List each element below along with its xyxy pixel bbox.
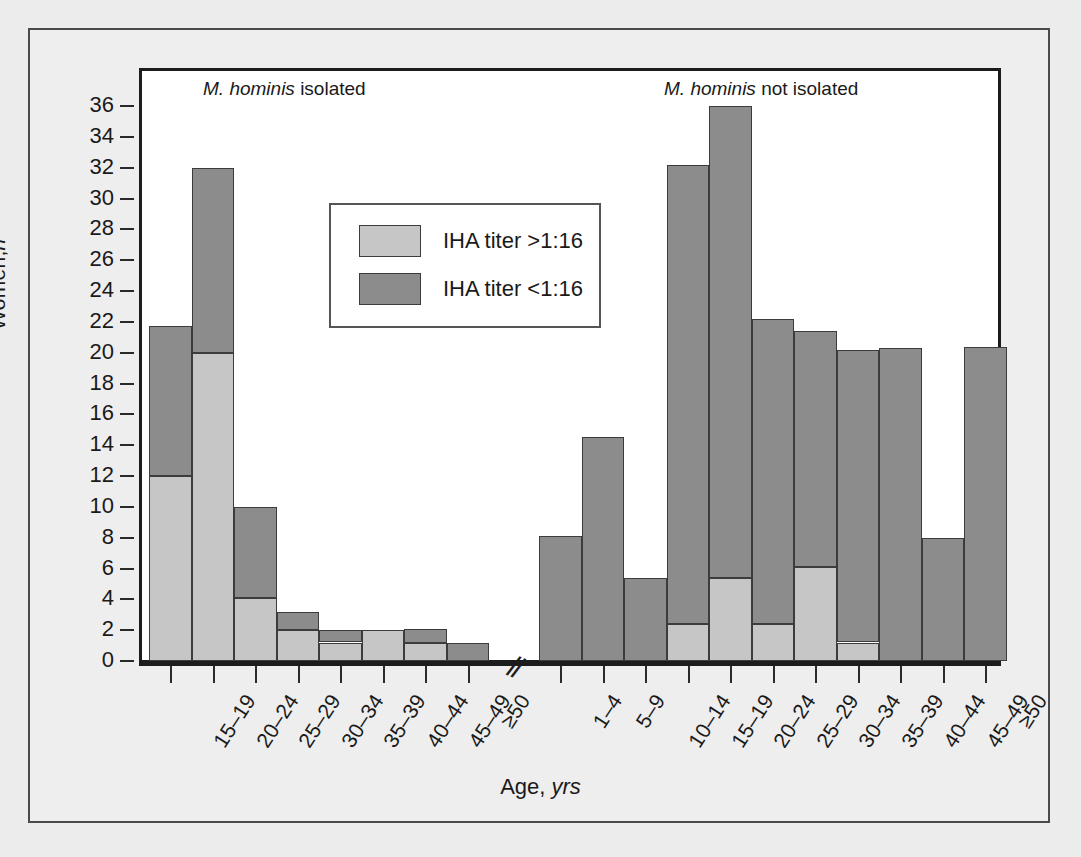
x-axis-tick-mark [560, 666, 562, 683]
bar-segment-low-titer [837, 350, 880, 643]
bar-segment-high-titer [149, 476, 192, 661]
x-axis-tick-mark [255, 666, 257, 683]
y-axis-tick-label: 24 [60, 277, 114, 303]
y-axis-tick-label: 2 [60, 616, 114, 642]
y-axis-tick-label: 28 [60, 215, 114, 241]
y-axis-tick-label: 32 [60, 154, 114, 180]
bar-segment-low-titer [667, 165, 710, 624]
y-axis-tick-mark [120, 290, 134, 292]
bar-segment-low-titer [964, 347, 1007, 662]
x-axis-tick-mark [213, 666, 215, 683]
legend: IHA titer >1:16 IHA titer <1:16 [329, 203, 601, 328]
figure-root: Women,n 02468101214161820222426283032343… [0, 0, 1081, 857]
y-axis-tick-label: 22 [60, 308, 114, 334]
y-axis-tick-label: 30 [60, 185, 114, 211]
x-axis-tick-mark [170, 666, 172, 683]
bar-segment-high-titer [752, 624, 795, 661]
x-axis-tick-mark [688, 666, 690, 683]
x-axis-title-main: Age, [500, 774, 545, 799]
panel-title-right-rest: not isolated [756, 78, 858, 99]
bar-segment-low-titer [582, 437, 625, 661]
x-axis-tick-mark [603, 666, 605, 683]
legend-swatch-low-titer [359, 273, 421, 305]
x-axis-title: Age, yrs [0, 774, 1081, 800]
panel-title-right: M. hominis not isolated [664, 78, 858, 100]
y-axis-tick-label: 4 [60, 585, 114, 611]
x-axis-line [139, 661, 1001, 666]
legend-entry-high-titer: IHA titer >1:16 [359, 225, 583, 257]
bar-segment-low-titer [624, 578, 667, 661]
legend-label-high-titer: IHA titer >1:16 [443, 228, 583, 254]
bar-segment-low-titer [319, 630, 362, 642]
bar-segment-high-titer [709, 578, 752, 661]
x-axis-tick-mark [730, 666, 732, 683]
panel-title-right-species: M. hominis [664, 78, 756, 99]
y-axis-tick-mark [120, 198, 134, 200]
y-axis-tick-label: 12 [60, 462, 114, 488]
y-axis-tick-label: 6 [60, 555, 114, 581]
bar-segment-high-titer [362, 630, 405, 661]
x-axis-tick-mark [383, 666, 385, 683]
y-axis-tick-mark [120, 444, 134, 446]
bar-segment-high-titer [404, 643, 447, 662]
y-axis-tick-mark [120, 475, 134, 477]
x-axis-tick-mark [340, 666, 342, 683]
y-axis-tick-mark [120, 352, 134, 354]
panel-title-left-rest: isolated [295, 78, 366, 99]
y-axis-tick-label: 36 [60, 92, 114, 118]
y-axis-tick-label: 18 [60, 370, 114, 396]
y-axis-tick-mark [120, 259, 134, 261]
y-axis-tick-mark [120, 568, 134, 570]
y-axis-tick-mark [120, 629, 134, 631]
x-axis-tick-mark [858, 666, 860, 683]
bar-segment-high-titer [277, 630, 320, 661]
plot-interior: M. hominis isolated M. hominis not isola… [139, 68, 1001, 663]
bar-segment-low-titer [539, 536, 582, 661]
bar-segment-low-titer [192, 168, 235, 353]
y-axis-tick-label: 14 [60, 431, 114, 457]
x-axis-title-italic: yrs [552, 774, 581, 799]
bar-segment-high-titer [794, 567, 837, 661]
y-axis-tick-mark [120, 413, 134, 415]
bar-segment-low-titer [709, 106, 752, 578]
x-axis-tick-mark [815, 666, 817, 683]
y-axis-tick-label: 34 [60, 123, 114, 149]
legend-label-low-titer: IHA titer <1:16 [443, 276, 583, 302]
bar-segment-high-titer [319, 643, 362, 662]
y-axis-tick-label: 10 [60, 493, 114, 519]
y-axis-tick-label: 16 [60, 400, 114, 426]
bar-segment-low-titer [752, 319, 795, 624]
y-axis-tick-label: 20 [60, 339, 114, 365]
bar-segment-low-titer [277, 612, 320, 631]
legend-swatch-high-titer [359, 225, 421, 257]
y-axis-tick-label: 26 [60, 246, 114, 272]
y-axis-tick-mark [120, 598, 134, 600]
bar-segment-low-titer [794, 331, 837, 567]
x-axis-tick-mark [943, 666, 945, 683]
bar-segment-low-titer [447, 643, 490, 662]
bar-segment-high-titer [837, 643, 880, 662]
bar-segment-high-titer [667, 624, 710, 661]
x-axis-tick-mark [900, 666, 902, 683]
bar-segment-high-titer [192, 353, 235, 661]
y-axis-tick-mark [120, 506, 134, 508]
y-axis-title: Women,n [0, 238, 10, 330]
y-axis-tick-mark [120, 321, 134, 323]
x-axis-tick-mark [645, 666, 647, 683]
panel-title-left: M. hominis isolated [203, 78, 366, 100]
y-axis-tick-mark [120, 167, 134, 169]
bar-segment-low-titer [879, 348, 922, 661]
y-axis-tick-mark [120, 383, 134, 385]
bar-segment-high-titer [234, 598, 277, 661]
x-axis-tick-mark [468, 666, 470, 683]
y-axis-tick-mark [120, 105, 134, 107]
y-axis-tick-label: 0 [60, 647, 114, 673]
panel-title-left-species: M. hominis [203, 78, 295, 99]
y-axis-tick-mark [120, 537, 134, 539]
x-axis-tick-mark [985, 666, 987, 683]
y-axis-title-italic: n [0, 238, 9, 250]
y-axis-tick-mark [120, 660, 134, 662]
x-axis-tick-mark [773, 666, 775, 683]
x-axis-tick-mark [425, 666, 427, 683]
y-axis-tick-label: 8 [60, 524, 114, 550]
